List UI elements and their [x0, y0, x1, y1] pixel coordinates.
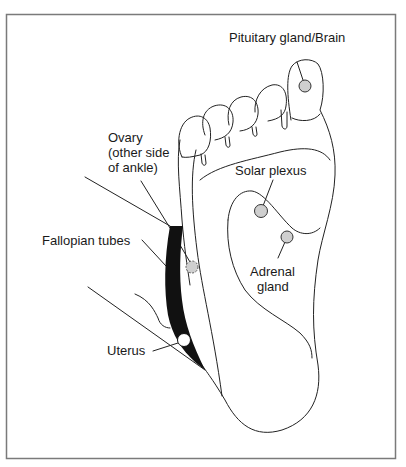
big-toe-crease [292, 114, 320, 121]
label-adrenal-gland-line2: gland [257, 279, 289, 294]
foot-outline [200, 60, 335, 433]
adrenal-pointer [278, 242, 285, 258]
ankle-curve [135, 294, 170, 328]
label-ovary-line2: (other side [108, 145, 169, 160]
label-uterus: Uterus [107, 343, 145, 358]
upper-guide-line [85, 177, 170, 226]
uterus-pointer [153, 343, 178, 351]
label-ovary-line3: of ankle) [108, 160, 158, 175]
adrenal-point [281, 231, 293, 243]
reflexology-diagram: Pituitary gland/Brain Ovary (other side … [0, 0, 406, 467]
uterus-point [178, 334, 191, 347]
label-pituitary-gland: Pituitary gland/Brain [229, 30, 345, 45]
fallopian-pointer [142, 240, 166, 266]
toe-5 [179, 116, 211, 157]
ovary-pointer [141, 181, 170, 228]
solar-plexus-point [255, 205, 268, 218]
label-ovary: Ovary [108, 130, 143, 145]
diaphragm-line [228, 191, 320, 234]
label-fallopian-tubes: Fallopian tubes [42, 233, 130, 248]
label-adrenal-gland: Adrenal [250, 264, 295, 279]
pituitary-point [299, 80, 311, 92]
toe-gap-3 [252, 127, 257, 136]
toe-gap-2 [225, 137, 230, 147]
toe-gap-1 [201, 154, 206, 165]
label-solar-plexus: Solar plexus [235, 163, 307, 178]
ovary-point [186, 261, 198, 273]
